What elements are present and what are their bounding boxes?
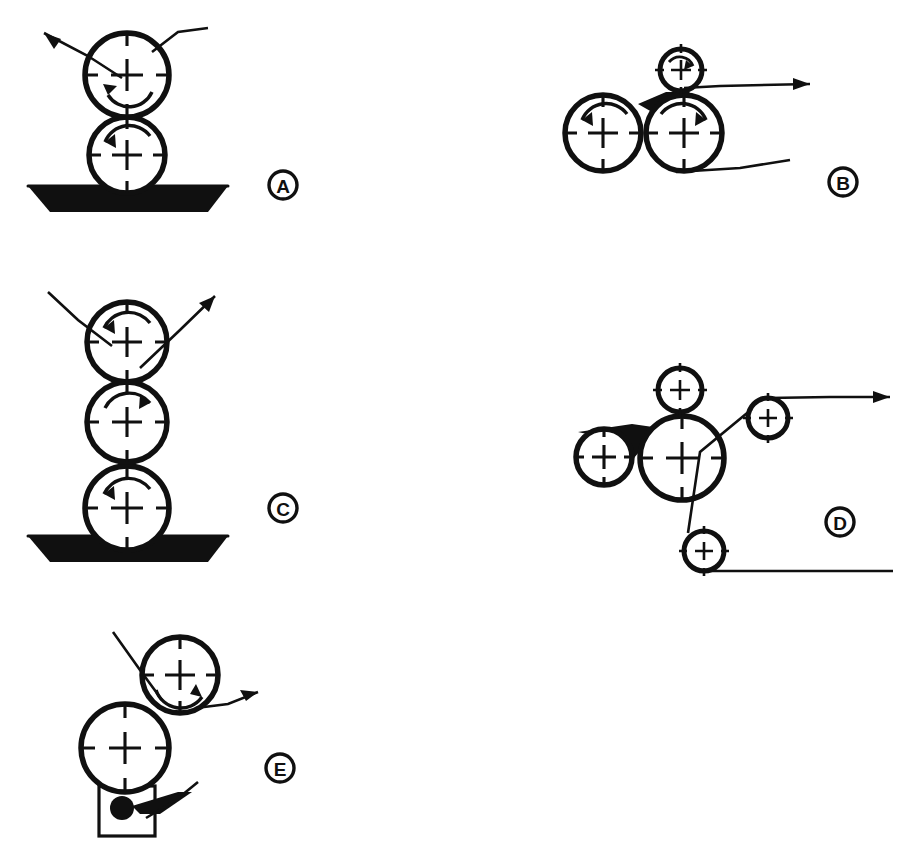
fountain-box — [99, 786, 155, 836]
roller-top-metering — [653, 363, 707, 417]
blade-arm — [146, 782, 198, 818]
panel-label-b: B — [826, 165, 860, 199]
panel-label-d: D — [823, 505, 857, 539]
roller-central — [640, 416, 724, 500]
center-cross-mark — [574, 427, 634, 487]
center-cross-mark — [679, 526, 729, 576]
web-entry — [113, 632, 162, 700]
roller-top-small — [655, 44, 707, 96]
web-exit — [684, 78, 810, 90]
rotation-arrow-ccw — [104, 478, 150, 500]
panel-label-c-text: C — [276, 499, 290, 520]
rotation-arrow-ccw — [104, 312, 150, 334]
roller-upper-idler — [743, 393, 793, 443]
center-cross-mark — [646, 95, 722, 171]
web-wrap — [688, 409, 752, 533]
roller-left-nip — [574, 427, 634, 487]
web-exit — [140, 296, 215, 368]
roller-left — [565, 95, 641, 171]
roller-lower — [81, 704, 169, 792]
panel-label-d-text: D — [833, 513, 847, 534]
panel-label-a: A — [266, 168, 300, 202]
rotation-arrow-cw — [669, 57, 693, 70]
web-entry — [676, 160, 790, 172]
roller-lower — [89, 117, 165, 193]
center-cross-mark — [653, 363, 707, 417]
center-cross-mark — [87, 302, 167, 382]
panel-label-b-text: B — [836, 173, 850, 194]
roller-right — [646, 95, 722, 171]
roller-lower-idler — [679, 526, 729, 576]
nip-pond-fill — [578, 424, 660, 458]
roller-upper — [85, 33, 169, 117]
web-exit-top — [768, 391, 890, 403]
center-cross-mark — [87, 382, 167, 462]
web-entry — [48, 292, 112, 346]
coating-pan — [28, 536, 228, 562]
rotation-arrow-ccw — [582, 104, 627, 126]
roller-upper — [142, 637, 218, 713]
center-cross-mark — [85, 466, 169, 550]
metering-rod — [110, 796, 134, 820]
doctor-blade-wedge — [132, 792, 192, 814]
center-cross-mark — [81, 704, 169, 792]
panel-label-a-text: A — [276, 176, 290, 197]
center-cross-mark — [743, 393, 793, 443]
rotation-arrow-cw — [661, 104, 706, 126]
center-cross-mark — [142, 637, 218, 713]
figure-root: A — [0, 0, 908, 861]
panel-label-e: E — [263, 751, 297, 785]
roller-top — [87, 302, 167, 382]
panel-label-e-text: E — [274, 759, 287, 780]
panel-a: A — [0, 0, 340, 240]
center-cross-mark — [655, 44, 707, 96]
roller-bottom — [85, 466, 169, 550]
center-cross-mark — [565, 95, 641, 171]
web-exit — [196, 690, 258, 708]
center-cross-mark — [640, 416, 724, 500]
rotation-arrow-cw — [105, 393, 150, 409]
panel-label-c: C — [266, 491, 300, 525]
roller-middle — [87, 382, 167, 462]
nip-pond-fill — [638, 92, 690, 126]
rotation-arrow-cw — [156, 684, 202, 708]
